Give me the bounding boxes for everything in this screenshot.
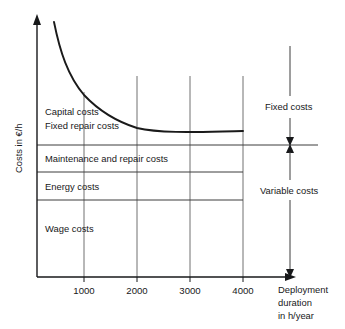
x-tick-label-1000: 1000 <box>73 285 94 296</box>
x-tick-label-2000: 2000 <box>126 285 147 296</box>
diagram-canvas: 1000 2000 3000 4000 Costs in €/h Deploym… <box>0 0 345 329</box>
x-axis-title-line1: Deployment <box>278 284 328 295</box>
band-label-energy-costs: Energy costs <box>45 181 100 192</box>
band-label-fixed-repair-costs: Fixed repair costs <box>45 120 119 131</box>
canvas-background <box>0 0 345 329</box>
bracket-label-variable-costs: Variable costs <box>260 185 318 196</box>
cost-structure-diagram: 1000 2000 3000 4000 Costs in €/h Deploym… <box>0 0 345 329</box>
x-tick-label-3000: 3000 <box>179 285 200 296</box>
band-label-capital-costs: Capital costs <box>45 106 99 117</box>
x-axis-title-line3: in h/year <box>278 310 314 321</box>
x-axis-title-line2: duration <box>278 297 312 308</box>
band-label-maintenance-costs: Maintenance and repair costs <box>45 153 168 164</box>
x-tick-label-4000: 4000 <box>232 285 253 296</box>
y-axis-title: Costs in €/h <box>13 123 24 173</box>
band-label-wage-costs: Wage costs <box>45 223 94 234</box>
bracket-label-fixed-costs: Fixed costs <box>265 101 313 112</box>
